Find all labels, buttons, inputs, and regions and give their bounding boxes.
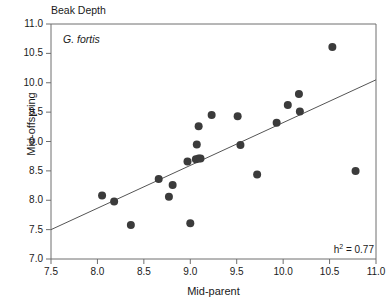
x-tick-label: 9.5 bbox=[217, 266, 257, 277]
x-tick-label: 10.0 bbox=[263, 266, 303, 277]
y-tick-label: 10.5 bbox=[11, 47, 43, 58]
x-tick-label: 9.0 bbox=[170, 266, 210, 277]
data-point bbox=[296, 108, 304, 116]
y-tick-label: 9.5 bbox=[11, 106, 43, 117]
data-point bbox=[98, 192, 106, 200]
data-point bbox=[328, 43, 336, 51]
plot-canvas bbox=[0, 0, 392, 305]
axis-ticks-group bbox=[46, 24, 376, 264]
x-tick-label: 8.0 bbox=[77, 266, 117, 277]
y-tick-label: 9.0 bbox=[11, 136, 43, 147]
x-tick-label: 8.5 bbox=[124, 266, 164, 277]
y-tick-label: 7.0 bbox=[11, 253, 43, 264]
data-point bbox=[195, 122, 203, 130]
x-tick-label: 10.5 bbox=[310, 266, 350, 277]
data-point bbox=[284, 101, 292, 109]
beak-depth-scatter-figure: Beak Depth G. fortis Mid-offspring Mid-p… bbox=[0, 0, 392, 305]
data-point bbox=[155, 175, 163, 183]
data-point bbox=[352, 167, 360, 175]
data-point bbox=[193, 140, 201, 148]
data-points-group bbox=[98, 43, 360, 229]
data-point bbox=[197, 155, 205, 163]
data-point bbox=[186, 219, 194, 227]
data-point bbox=[127, 221, 135, 229]
y-tick-label: 7.5 bbox=[11, 224, 43, 235]
data-point bbox=[234, 112, 242, 120]
data-point bbox=[110, 197, 118, 205]
axes-group bbox=[51, 24, 376, 259]
data-point bbox=[236, 141, 244, 149]
data-point bbox=[273, 119, 281, 127]
y-tick-label: 8.0 bbox=[11, 194, 43, 205]
data-point bbox=[253, 170, 261, 178]
regression-line bbox=[51, 80, 376, 230]
data-point bbox=[169, 181, 177, 189]
data-point bbox=[165, 193, 173, 201]
data-point bbox=[295, 90, 303, 98]
x-tick-label: 11.0 bbox=[356, 266, 392, 277]
data-point bbox=[208, 111, 216, 119]
y-tick-label: 10.0 bbox=[11, 77, 43, 88]
x-tick-label: 7.5 bbox=[31, 266, 71, 277]
y-tick-label: 8.5 bbox=[11, 165, 43, 176]
y-tick-label: 11.0 bbox=[11, 18, 43, 29]
data-point bbox=[184, 157, 192, 165]
regression-line-group bbox=[51, 80, 376, 230]
